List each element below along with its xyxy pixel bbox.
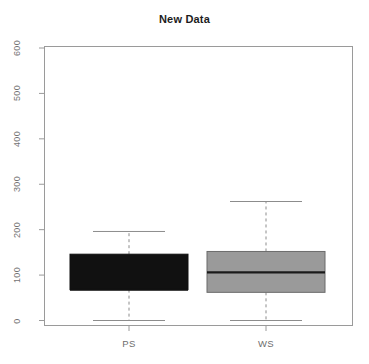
- y-tick-label: 300: [10, 167, 24, 201]
- boxplot-figure: New Data 0100200300400500600PSWS: [0, 0, 369, 364]
- x-tick-label-ps: PS: [99, 338, 159, 349]
- y-tick-label: 500: [10, 76, 24, 110]
- y-tick-label: 0: [10, 304, 24, 338]
- y-tick-label: 200: [10, 213, 24, 247]
- box-body-ps: [70, 254, 188, 289]
- y-tick-label: 400: [10, 122, 24, 156]
- y-tick-label: 600: [10, 31, 24, 65]
- plot-canvas: [0, 0, 369, 364]
- y-tick-label: 100: [10, 258, 24, 292]
- x-tick-label-ws: WS: [236, 338, 296, 349]
